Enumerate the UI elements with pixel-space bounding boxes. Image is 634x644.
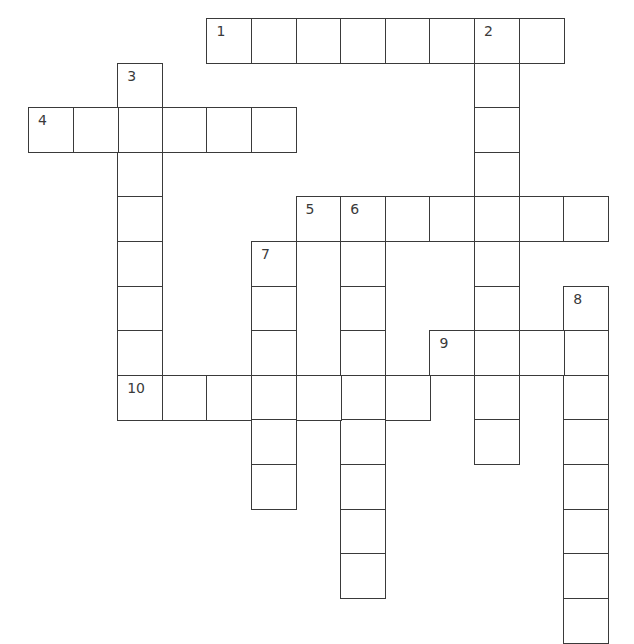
crossword-cell[interactable] — [117, 107, 163, 153]
crossword-cell[interactable] — [251, 330, 297, 376]
crossword-cell[interactable] — [563, 419, 609, 465]
crossword-cell[interactable] — [474, 241, 520, 287]
crossword-cell[interactable] — [563, 553, 609, 599]
crossword-cell[interactable] — [251, 18, 297, 64]
crossword-cell[interactable] — [474, 419, 520, 465]
crossword-cell[interactable] — [340, 241, 386, 287]
clue-number: 6 — [350, 202, 359, 216]
crossword-cell[interactable]: 10 — [117, 375, 163, 421]
crossword-cell[interactable] — [340, 286, 386, 332]
crossword-cell[interactable] — [563, 330, 609, 376]
crossword-cell[interactable] — [251, 464, 297, 510]
crossword-cell[interactable] — [385, 18, 431, 64]
crossword-cell[interactable] — [251, 107, 297, 153]
crossword-cell[interactable] — [474, 286, 520, 332]
crossword-cell[interactable]: 8 — [563, 286, 609, 332]
crossword-cell[interactable]: 4 — [28, 107, 74, 153]
crossword-cell[interactable] — [117, 330, 163, 376]
crossword-cell[interactable] — [474, 330, 520, 376]
crossword-cell[interactable] — [117, 196, 163, 242]
crossword-cell[interactable] — [519, 18, 565, 64]
crossword-cell[interactable]: 3 — [117, 63, 163, 109]
clue-number: 8 — [573, 292, 582, 306]
crossword-cell[interactable] — [474, 375, 520, 421]
clue-number: 4 — [38, 113, 47, 127]
crossword-cell[interactable] — [296, 18, 342, 64]
crossword-cell[interactable] — [206, 375, 252, 421]
clue-number: 5 — [306, 202, 315, 216]
crossword-cell[interactable] — [563, 196, 609, 242]
clue-number: 7 — [261, 247, 270, 261]
crossword-cell[interactable] — [340, 375, 386, 421]
crossword-cell[interactable] — [563, 464, 609, 510]
crossword-cell[interactable] — [563, 598, 609, 644]
crossword-cell[interactable] — [340, 553, 386, 599]
crossword-cell[interactable]: 7 — [251, 241, 297, 287]
crossword-cell[interactable]: 9 — [429, 330, 475, 376]
crossword-cell[interactable] — [251, 375, 297, 421]
crossword-cell[interactable] — [474, 152, 520, 198]
crossword-cell[interactable] — [519, 330, 565, 376]
crossword-cell[interactable] — [474, 63, 520, 109]
crossword-cell[interactable]: 5 — [296, 196, 342, 242]
clue-number: 2 — [484, 24, 493, 38]
crossword-cell[interactable]: 2 — [474, 18, 520, 64]
crossword-cell[interactable] — [519, 196, 565, 242]
crossword-cell[interactable] — [429, 196, 475, 242]
crossword-cell[interactable] — [340, 509, 386, 555]
crossword-cell[interactable] — [206, 107, 252, 153]
crossword-cell[interactable] — [340, 18, 386, 64]
crossword-cell[interactable] — [117, 286, 163, 332]
crossword-cell[interactable]: 6 — [340, 196, 386, 242]
crossword-cell[interactable] — [474, 196, 520, 242]
crossword-cell[interactable] — [117, 241, 163, 287]
crossword-cell[interactable] — [251, 286, 297, 332]
crossword-cell[interactable] — [296, 375, 342, 421]
crossword-cell[interactable] — [251, 419, 297, 465]
crossword-cell[interactable] — [162, 375, 208, 421]
crossword-cell[interactable] — [73, 107, 119, 153]
crossword-cell[interactable] — [117, 152, 163, 198]
crossword-cell[interactable] — [162, 107, 208, 153]
crossword-cell[interactable] — [474, 107, 520, 153]
clue-number: 10 — [127, 381, 145, 395]
crossword-cell[interactable] — [340, 419, 386, 465]
crossword-cell[interactable] — [563, 375, 609, 421]
crossword-cell[interactable] — [340, 464, 386, 510]
crossword-cell[interactable]: 1 — [206, 18, 252, 64]
crossword-cell[interactable] — [340, 330, 386, 376]
crossword-cell[interactable] — [385, 375, 431, 421]
crossword-cell[interactable] — [563, 509, 609, 555]
crossword-cell[interactable] — [385, 196, 431, 242]
clue-number: 1 — [216, 24, 225, 38]
clue-number: 3 — [127, 69, 136, 83]
clue-number: 9 — [439, 336, 448, 350]
crossword-cell[interactable] — [429, 18, 475, 64]
